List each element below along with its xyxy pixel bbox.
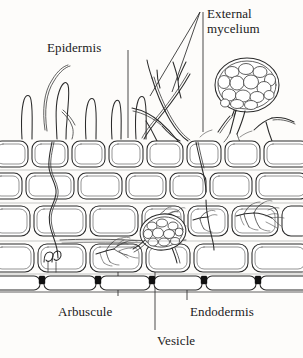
epidermis-layer	[0, 141, 303, 167]
cortex-layer-1	[0, 173, 303, 199]
diagram-canvas: .ln { fill:none; stroke:#2b2b2b; stroke-…	[0, 0, 303, 358]
label-external-mycelium: External mycelium	[207, 6, 297, 36]
spore	[215, 58, 279, 142]
label-endodermis: Endodermis	[190, 305, 254, 319]
endodermis-layer	[0, 276, 303, 292]
label-arbuscule: Arbuscule	[58, 305, 112, 319]
label-vesicle: Vesicle	[157, 334, 195, 348]
label-epidermis: Epidermis	[47, 41, 101, 55]
mycorrhiza-diagram: .ln { fill:none; stroke:#2b2b2b; stroke-…	[0, 0, 303, 358]
root-hairs	[21, 65, 146, 139]
